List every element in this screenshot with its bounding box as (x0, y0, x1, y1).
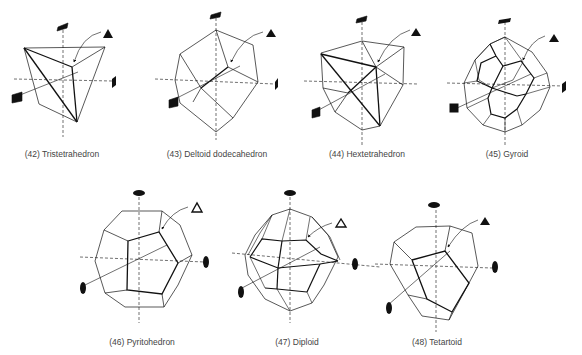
ellipse-left-icon (80, 282, 86, 294)
open-triangle-symbol-icon (336, 219, 346, 227)
half-square-left-icon (312, 107, 320, 118)
half-square-left-icon (12, 92, 22, 103)
caption-tristetrahedron: (42) Tristetrahedron (25, 149, 100, 159)
figure-pyritohedron (80, 190, 209, 323)
ellipse-right-icon (492, 261, 498, 273)
filled-square-left-icon (450, 104, 458, 112)
half-square-left-icon (169, 97, 178, 108)
triangle-symbol-icon (103, 29, 113, 38)
caption-pyritohedron: (46) Pyritohedron (109, 337, 175, 347)
ellipse-top-icon (284, 190, 296, 196)
square-right-icon (562, 81, 566, 93)
figure-tetartoid (375, 202, 498, 332)
triangle-symbol-icon (411, 28, 421, 36)
ellipse-right-icon (352, 258, 358, 270)
figure-deltoid-dodecahedron (155, 12, 278, 140)
caption-deltoid-dodecahedron: (43) Deltoid dodecahedron (167, 149, 268, 159)
caption-diploid: (47) Diploid (275, 337, 318, 347)
triangle-symbol-icon (549, 34, 559, 42)
figure-diploid (232, 190, 380, 323)
half-square-top-icon (210, 12, 221, 19)
caption-hextetrahedron: (44) Hextetrahedron (329, 149, 405, 159)
caption-tetartoid: (48) Tetartoid (412, 337, 462, 347)
half-square-top-icon (356, 16, 367, 23)
ellipse-top-icon (428, 202, 440, 208)
half-square-right-icon (275, 78, 278, 90)
half-square-top-icon (57, 23, 68, 31)
ellipse-left-icon (386, 302, 392, 314)
caption-gyroid: (45) Gyroid (486, 149, 529, 159)
triangle-symbol-icon (266, 29, 276, 37)
open-triangle-symbol-icon (192, 203, 202, 212)
ellipse-left-icon (238, 286, 244, 298)
ellipse-right-icon (203, 256, 209, 268)
triangle-symbol-icon (480, 217, 490, 225)
half-square-right-icon (112, 76, 116, 88)
figure-tristetrahedron (12, 23, 116, 137)
crystal-forms-diagram (0, 0, 582, 355)
ellipse-top-icon (133, 190, 145, 196)
figure-gyroid (447, 18, 566, 145)
square-top-icon (498, 18, 511, 24)
figure-hextetrahedron (304, 16, 421, 145)
